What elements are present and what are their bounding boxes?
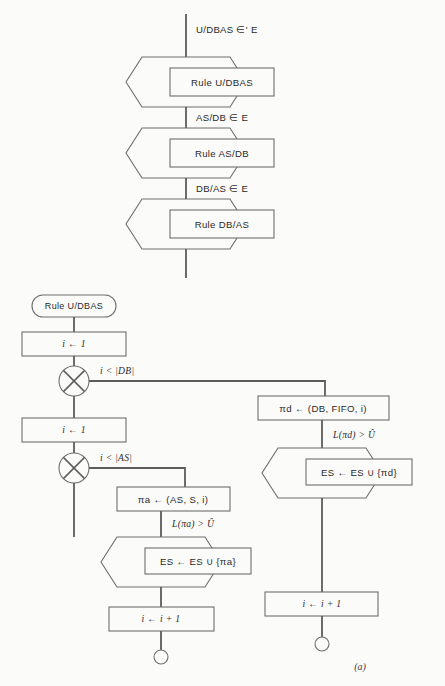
right-condition-label: L(πd) > Û [332,429,376,441]
init-outer-label: i ← 1 [62,338,86,349]
top-process-label-3: Rule DB/AS [195,219,250,230]
decision-outer-label: i < |DB| [100,365,134,376]
right-assign-label: πd ← (DB, FIFO, i) [279,403,367,414]
connector-decision-outer-true [89,381,325,396]
left-loop-terminal [154,650,168,664]
top-flowchart [126,14,274,278]
decision-inner-label: i < |AS| [100,452,132,463]
start-terminator-label: Rule U/DBAS [45,301,103,311]
top-exit-label-1: AS/DB ∈ E [196,112,248,123]
left-action-label: ES ← ES ∪ {πa} [160,556,237,567]
top-process-label-1: Rule U/DBAS [191,77,253,88]
top-entry-label: U/DBAS ∈' E [196,24,258,35]
figure-canvas: U/DBAS ∈' E Rule U/DBAS AS/DB ∈ E Rule A… [0,0,445,686]
figure-caption: (a) [354,661,366,673]
connector-decision-inner-true [89,468,185,487]
right-action-label: ES ← ES ∪ {πd} [321,467,398,478]
left-branch-group [101,487,251,664]
init-inner-label: i ← 1 [62,424,86,435]
top-process-label-2: Rule AS/DB [195,148,249,159]
bottom-flowchart [22,295,412,664]
right-loop-terminal [315,637,329,651]
right-increment-label: i ← i + 1 [303,598,342,609]
left-increment-label: i ← i + 1 [142,613,181,624]
left-condition-label: L(πa) > Û [171,518,215,530]
left-assign-label: πa ← (AS, S, i) [138,494,209,505]
top-exit-label-2: DB/AS ∈ E [196,183,248,194]
